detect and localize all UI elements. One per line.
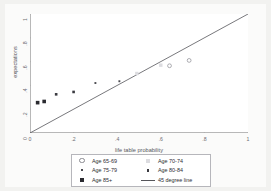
reference-line-45deg	[30, 14, 248, 133]
x-tick-label: .4	[113, 137, 121, 142]
light-square-marker-icon	[141, 159, 155, 162]
big-square-marker-icon	[75, 178, 89, 182]
dot-marker-icon	[75, 169, 89, 171]
chart-legend: Age 65-69 Age 70-74 Age 75-79 Age 80-84 …	[71, 154, 211, 187]
x-tick-label: .6	[157, 137, 165, 142]
legend-label: 45 degree line	[158, 177, 192, 183]
legend-label: Age 75-79	[92, 167, 117, 173]
chart-screenshot: 0.2.4.6.81 0.2.4.6.81 life table probabi…	[0, 0, 271, 191]
data-point	[168, 64, 172, 68]
legend-label: Age 80-84	[158, 167, 183, 173]
data-point	[42, 100, 46, 104]
x-tick-label: 1	[244, 137, 252, 142]
legend-item-age-65-69: Age 65-69	[75, 158, 141, 164]
line-marker-icon	[141, 180, 155, 181]
chart-canvas: 0.2.4.6.81 0.2.4.6.81 life table probabi…	[5, 4, 266, 187]
plot-svg	[30, 14, 248, 133]
legend-item-age-80-84: Age 80-84	[141, 167, 207, 173]
legend-label: Age 85+	[92, 177, 112, 183]
y-tick-label: .2	[23, 110, 28, 120]
data-point	[118, 80, 120, 82]
data-points	[36, 59, 191, 105]
data-point	[135, 72, 138, 75]
x-tick-label: .8	[200, 137, 208, 142]
data-point	[187, 59, 191, 63]
y-tick-label: .8	[23, 38, 28, 48]
y-tick-label: .6	[23, 62, 28, 72]
legend-item-45-degree-line: 45 degree line	[141, 177, 207, 183]
data-point	[159, 63, 162, 66]
legend-label: Age 70-74	[158, 158, 183, 164]
y-axis-title: expectations	[12, 32, 18, 92]
data-point	[72, 91, 75, 94]
data-point	[94, 82, 96, 84]
open-circle-marker-icon	[75, 158, 89, 163]
data-point	[36, 101, 40, 105]
legend-item-age-85-plus: Age 85+	[75, 177, 141, 183]
legend-item-age-70-74: Age 70-74	[141, 158, 207, 164]
y-tick-label: .4	[23, 86, 28, 96]
small-square-marker-icon	[141, 169, 155, 172]
x-axis-title: life table probability	[30, 147, 248, 153]
plot-area	[30, 14, 248, 133]
legend-item-age-75-79: Age 75-79	[75, 167, 141, 173]
x-tick-label: .2	[70, 137, 78, 142]
data-point	[55, 93, 58, 96]
x-tick-label: 0	[26, 137, 34, 142]
legend-label: Age 65-69	[92, 158, 117, 164]
y-tick-label: 1	[23, 15, 28, 25]
